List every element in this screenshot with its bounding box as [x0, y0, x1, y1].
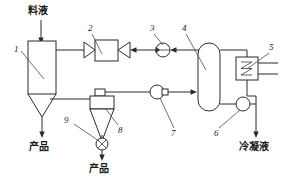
callout-5: 5	[269, 43, 274, 52]
callout-3: 3	[150, 24, 155, 33]
condensate-outlet-arrow	[253, 104, 258, 138]
feed-inlet-arrow	[38, 20, 43, 44]
callout-1: 1	[14, 45, 19, 54]
absorber-column	[198, 43, 220, 111]
callout-8: 8	[118, 126, 123, 135]
heat-exchanger-bowtie	[84, 40, 130, 61]
callout-7: 7	[171, 129, 176, 138]
callout-6: 6	[214, 129, 219, 138]
duct-column-to-condenser	[220, 50, 247, 57]
pump-6	[236, 96, 256, 111]
product-bottom-label: 产品	[89, 164, 109, 174]
callout-4: 4	[182, 24, 187, 33]
diagram-canvas	[0, 0, 285, 180]
product-left-label: 产品	[29, 142, 49, 152]
drying-chamber	[28, 41, 56, 138]
condenser	[236, 57, 278, 96]
callout-9: 9	[64, 116, 69, 125]
condensate-label: 冷凝液	[239, 142, 269, 152]
fan-7	[150, 85, 168, 99]
rotary-valve	[96, 138, 108, 161]
process-flow-diagram: 料液 产品 产品 冷凝液 1 2 3 4 5 6 7 8 9	[0, 0, 285, 180]
feed-label: 料液	[28, 6, 48, 16]
duct-fan7-to-column	[168, 89, 197, 94]
callout-2: 2	[88, 24, 93, 33]
